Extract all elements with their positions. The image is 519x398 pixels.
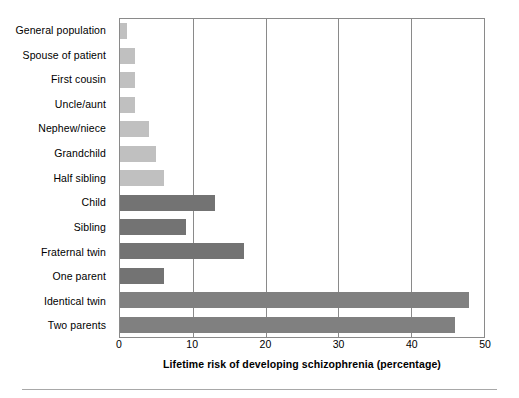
- category-label: Nephew/niece: [0, 116, 112, 141]
- bar: [120, 23, 127, 39]
- x-tick-label: 50: [479, 339, 491, 350]
- bar: [120, 243, 244, 259]
- bar-row: [120, 43, 484, 67]
- chart-figure: General population Spouse of patient Fir…: [0, 0, 519, 398]
- bar-row: [120, 68, 484, 92]
- category-label: Fraternal twin: [0, 239, 112, 264]
- bar: [120, 195, 215, 211]
- bar: [120, 121, 149, 137]
- bar-row: [120, 313, 484, 337]
- plot-area: [119, 18, 485, 338]
- category-label: One parent: [0, 264, 112, 289]
- x-tick-label: 40: [406, 339, 418, 350]
- x-tick-label: 30: [333, 339, 345, 350]
- x-axis-title: Lifetime risk of developing schizophreni…: [119, 358, 485, 370]
- bar-row: [120, 190, 484, 214]
- category-label: General population: [0, 18, 112, 43]
- bar: [120, 72, 135, 88]
- category-label: Spouse of patient: [0, 43, 112, 68]
- bar: [120, 219, 186, 235]
- bar-row: [120, 264, 484, 288]
- category-label: First cousin: [0, 67, 112, 92]
- bar: [120, 317, 455, 333]
- bar-series: [120, 19, 484, 337]
- bar: [120, 146, 156, 162]
- bar-row: [120, 117, 484, 141]
- bar-row: [120, 141, 484, 165]
- bar: [120, 268, 164, 284]
- x-tick-label: 10: [186, 339, 198, 350]
- category-label: Grandchild: [0, 141, 112, 166]
- category-axis-labels: General population Spouse of patient Fir…: [0, 18, 112, 338]
- x-tick-label: 0: [116, 339, 122, 350]
- bar-row: [120, 239, 484, 263]
- category-label: Two parents: [0, 313, 112, 338]
- category-label: Half sibling: [0, 166, 112, 191]
- category-label: Child: [0, 190, 112, 215]
- footer-divider: [22, 389, 497, 390]
- bar-row: [120, 215, 484, 239]
- bar-row: [120, 19, 484, 43]
- bar: [120, 292, 469, 308]
- category-label: Sibling: [0, 215, 112, 240]
- bar: [120, 97, 135, 113]
- category-label: Uncle/aunt: [0, 92, 112, 117]
- bar: [120, 170, 164, 186]
- x-axis-ticks: 01020304050: [119, 339, 485, 355]
- x-tick-label: 20: [260, 339, 272, 350]
- bar: [120, 48, 135, 64]
- bar-row: [120, 92, 484, 116]
- bar-row: [120, 166, 484, 190]
- bar-row: [120, 288, 484, 312]
- category-label: Identical twin: [0, 289, 112, 314]
